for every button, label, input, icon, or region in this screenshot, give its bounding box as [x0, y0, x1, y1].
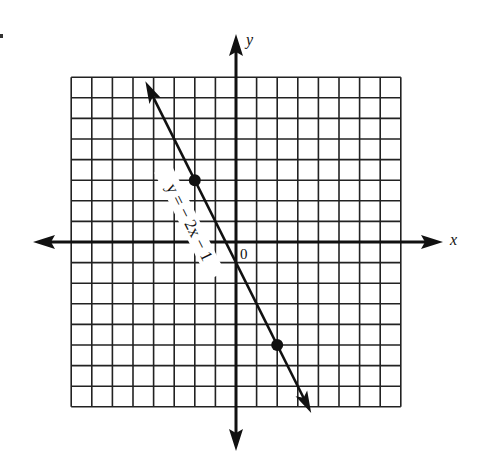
axes [33, 34, 443, 451]
x-axis-label: x [449, 231, 457, 248]
origin-label: 0 [240, 246, 248, 262]
plotted-line [145, 81, 311, 413]
marked-point [271, 339, 283, 351]
coordinate-plane: x y 0 y = − 2x − 1 [0, 0, 487, 469]
scan-artifact [0, 34, 3, 38]
y-axis-label: y [244, 31, 254, 49]
equation-text: y = − 2x − 1 [162, 180, 217, 264]
marked-point [189, 174, 201, 186]
